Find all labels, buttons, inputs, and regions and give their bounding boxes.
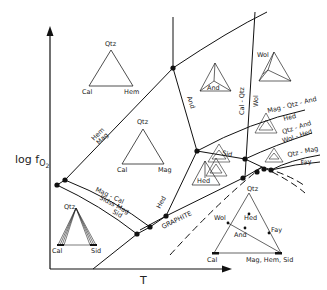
x-axis-arrow-icon — [222, 266, 232, 273]
svg-text:Sid: Sid — [91, 247, 101, 255]
y-axis-arrow-icon — [47, 26, 54, 36]
label-qtz-mag: Qtz - Mag — [287, 145, 319, 159]
label-mag-qtz-and-hed: Hed — [283, 112, 298, 123]
svg-text:Qtz: Qtz — [247, 185, 259, 193]
legend-triangle — [212, 193, 282, 255]
label-graphite: GRAPHITE — [160, 209, 193, 230]
label-fay: Fay — [300, 158, 312, 167]
label-and: And — [185, 95, 197, 110]
svg-text:Cal: Cal — [82, 88, 93, 96]
svg-text:Hed: Hed — [244, 214, 257, 222]
svg-text:And: And — [234, 231, 247, 239]
label-wol-vertical: Wol — [252, 95, 260, 107]
svg-text:Cal: Cal — [52, 247, 63, 255]
svg-text:Qtz: Qtz — [105, 40, 117, 48]
field-labels: Hem Mag And Cal - Qtz Wol Mag - Qtz - An… — [90, 87, 319, 231]
dashed-curve-2 — [262, 167, 305, 193]
triangle-hed-label: Hed — [197, 177, 210, 185]
svg-text:Mag: Mag — [158, 166, 172, 174]
svg-text:Mag, Hem, Sid: Mag, Hem, Sid — [246, 256, 293, 264]
triangle-cal-hem: Qtz Cal Hem — [82, 40, 139, 96]
triangle-cal-mag: Qtz Cal Mag — [117, 118, 172, 174]
y-axis-label: log fO2 — [15, 153, 49, 169]
hem-mag-boundary — [65, 68, 173, 180]
svg-text:Cal: Cal — [117, 166, 128, 174]
svg-text:Qtz: Qtz — [64, 203, 76, 211]
svg-text:Qtz: Qtz — [137, 118, 149, 126]
small-triangles — [206, 113, 283, 176]
svg-text:Cal: Cal — [207, 256, 218, 264]
svg-text:Hem: Hem — [124, 88, 139, 96]
svg-text:Fay: Fay — [271, 226, 282, 234]
triangle-wol-label: Wol — [257, 51, 269, 59]
svg-text:Wol: Wol — [214, 214, 226, 222]
hed-boundary — [166, 151, 197, 216]
label-hed: Hed — [155, 195, 168, 210]
and-boundary — [173, 68, 197, 151]
triangle-and-label: And — [207, 84, 220, 92]
label-cal-qtz: Cal - Qtz — [238, 87, 246, 115]
phase-diagram: log fO2 T — [0, 0, 327, 290]
triangle-cal-sid — [57, 208, 97, 246]
x-axis-label: T — [139, 274, 147, 287]
triangle-cal-sid-labels: Qtz Cal Sid — [52, 203, 101, 255]
cal-qtz-wol-boundary — [245, 12, 255, 177]
